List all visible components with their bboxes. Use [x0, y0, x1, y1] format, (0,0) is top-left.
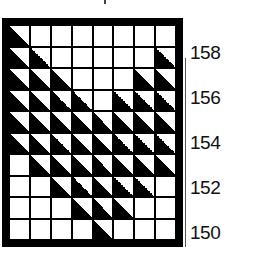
empty-cell	[52, 198, 71, 218]
triangle-cell	[156, 48, 175, 68]
triangle-cell	[52, 91, 71, 111]
triangle-cell	[52, 112, 71, 132]
triangle-cell	[135, 91, 154, 111]
empty-cell	[156, 198, 175, 218]
triangle-cell	[31, 112, 50, 132]
empty-cell	[73, 220, 92, 240]
row-label-152: 152	[190, 178, 220, 197]
triangle-cell	[94, 220, 113, 240]
empty-cell	[10, 220, 29, 240]
empty-cell	[52, 48, 71, 68]
triangle-cell	[52, 69, 71, 89]
triangle-cell	[94, 112, 113, 132]
triangle-cell	[31, 69, 50, 89]
triangle-cell	[94, 134, 113, 154]
row-label-154: 154	[190, 133, 220, 152]
triangle-cell	[10, 48, 29, 68]
triangle-cell	[94, 177, 113, 197]
empty-cell	[114, 48, 133, 68]
triangle-cell	[52, 177, 71, 197]
row-label-158: 158	[190, 43, 220, 62]
triangle-cell	[73, 112, 92, 132]
empty-cell	[31, 26, 50, 46]
triangle-cell	[10, 69, 29, 89]
empty-cell	[114, 69, 133, 89]
triangle-cell	[10, 26, 29, 46]
triangle-cell	[31, 155, 50, 175]
empty-cell	[156, 220, 175, 240]
empty-cell	[31, 198, 50, 218]
triangle-cell	[114, 91, 133, 111]
triangle-cell	[135, 177, 154, 197]
triangle-cell	[156, 112, 175, 132]
triangle-cell	[114, 198, 133, 218]
triangle-cell	[73, 134, 92, 154]
triangle-cell	[94, 198, 113, 218]
triangle-cell	[135, 69, 154, 89]
empty-cell	[135, 220, 154, 240]
triangle-cell	[73, 177, 92, 197]
triangle-cell	[10, 112, 29, 132]
empty-cell	[73, 48, 92, 68]
empty-cell	[114, 26, 133, 46]
triangle-cell	[135, 155, 154, 175]
triangle-cell	[135, 112, 154, 132]
row-label-150: 150	[190, 223, 220, 242]
empty-cell	[73, 26, 92, 46]
triangle-cell	[31, 134, 50, 154]
empty-cell	[94, 91, 113, 111]
triangle-cell	[31, 91, 50, 111]
stitch-chart	[2, 18, 183, 247]
empty-cell	[73, 69, 92, 89]
empty-cell	[135, 26, 154, 46]
row-label-156: 156	[190, 88, 220, 107]
empty-cell	[94, 48, 113, 68]
empty-cell	[52, 26, 71, 46]
empty-cell	[156, 26, 175, 46]
triangle-cell	[156, 69, 175, 89]
empty-cell	[94, 26, 113, 46]
triangle-cell	[156, 91, 175, 111]
triangle-cell	[31, 48, 50, 68]
empty-cell	[10, 177, 29, 197]
empty-cell	[31, 177, 50, 197]
triangle-cell	[114, 155, 133, 175]
triangle-cell	[114, 134, 133, 154]
empty-cell	[135, 198, 154, 218]
empty-cell	[156, 177, 175, 197]
empty-cell	[94, 69, 113, 89]
empty-cell	[10, 155, 29, 175]
triangle-cell	[10, 91, 29, 111]
triangle-cell	[73, 198, 92, 218]
chart-grid	[10, 26, 175, 239]
triangle-cell	[156, 134, 175, 154]
empty-cell	[135, 48, 154, 68]
triangle-cell	[114, 112, 133, 132]
triangle-cell	[94, 155, 113, 175]
top-tick-mark	[104, 0, 106, 4]
triangle-cell	[73, 91, 92, 111]
triangle-cell	[52, 155, 71, 175]
triangle-cell	[10, 134, 29, 154]
row-label-rule	[185, 58, 186, 247]
triangle-cell	[135, 134, 154, 154]
empty-cell	[52, 220, 71, 240]
empty-cell	[114, 220, 133, 240]
triangle-cell	[73, 155, 92, 175]
triangle-cell	[114, 177, 133, 197]
empty-cell	[10, 198, 29, 218]
triangle-cell	[156, 155, 175, 175]
empty-cell	[31, 220, 50, 240]
triangle-cell	[52, 134, 71, 154]
